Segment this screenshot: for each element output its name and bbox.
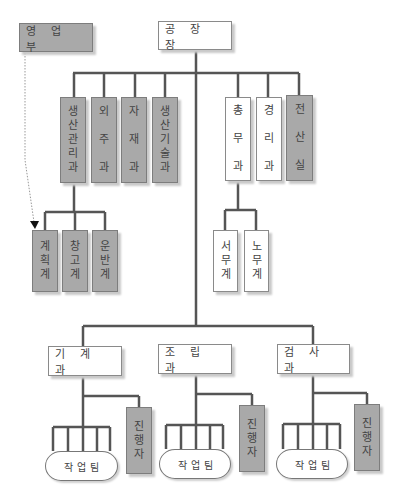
node-label: 술 xyxy=(160,147,170,161)
node-label: 행 xyxy=(134,434,144,448)
node-label: 기 계 과 xyxy=(55,345,121,377)
node-label: 진 xyxy=(247,418,257,432)
node-label: 서 xyxy=(221,240,231,254)
clerical-box: 서 무 계 xyxy=(213,230,238,292)
node-label: 과 xyxy=(68,161,78,175)
node-label: 공 장 장 xyxy=(165,20,231,52)
node-label: 계 xyxy=(252,268,262,282)
node-label: 과 xyxy=(160,161,170,175)
node-label: 자 xyxy=(129,105,139,119)
transport-box: 운 반 계 xyxy=(92,230,118,292)
expediter-1-box: 진 행 자 xyxy=(126,407,152,474)
node-label: 무 xyxy=(252,254,262,268)
node-label: 무 xyxy=(221,254,231,268)
node-label: 창 xyxy=(70,240,80,254)
node-label: 진 xyxy=(362,417,372,431)
node-label: 조 립 과 xyxy=(165,343,231,375)
accounting-box: 경 리 과 xyxy=(256,97,282,181)
machining-dept-box: 기 계 과 xyxy=(48,346,122,376)
expediter-3-box: 진 행 자 xyxy=(354,404,380,471)
node-label: 경 xyxy=(264,104,274,118)
materials-box: 자 재 과 xyxy=(121,97,147,183)
node-label: 과 xyxy=(264,160,274,174)
node-label: 행 xyxy=(247,432,257,446)
planning-box: 계 획 계 xyxy=(32,230,58,292)
node-label: 계 xyxy=(40,268,50,282)
node-label: 계 xyxy=(40,240,50,254)
node-label: 주 xyxy=(99,133,109,147)
node-label: 리 xyxy=(68,147,78,161)
general-affairs-box: 총 무 과 xyxy=(225,97,251,181)
node-label: 자 xyxy=(247,446,257,460)
production-tech-box: 생 산 기 술 과 xyxy=(152,97,178,183)
labor-box: 노 무 계 xyxy=(244,230,269,292)
node-label: 전 xyxy=(295,103,305,117)
node-label: 작업팀 xyxy=(64,459,103,474)
assembly-dept-box: 조 립 과 xyxy=(158,344,232,374)
node-label: 고 xyxy=(70,254,80,268)
work-team-3: 작업팀 xyxy=(276,449,348,479)
node-label: 운 xyxy=(100,240,110,254)
node-label: 계 xyxy=(221,268,231,282)
sales-dept-box: 영 업 부 xyxy=(19,23,93,52)
node-label: 리 xyxy=(264,132,274,146)
org-chart: 영 업 부 공 장 장 생 산 관 리 과 외 주 과 자 재 과 생 산 기 … xyxy=(0,0,404,499)
outsourcing-box: 외 주 과 xyxy=(91,97,117,183)
node-label: 작업팀 xyxy=(178,457,217,472)
work-team-1: 작업팀 xyxy=(45,451,118,481)
node-label: 검 사 과 xyxy=(284,343,349,375)
node-label: 자 xyxy=(134,448,144,462)
node-label: 산 xyxy=(295,131,305,145)
node-label: 반 xyxy=(100,254,110,268)
node-label: 기 xyxy=(160,133,170,147)
node-label: 영 업 부 xyxy=(26,22,92,54)
node-label: 재 xyxy=(129,133,139,147)
node-label: 행 xyxy=(362,431,372,445)
expediter-2-box: 진 행 자 xyxy=(239,405,265,472)
node-label: 생 xyxy=(160,105,170,119)
work-team-2: 작업팀 xyxy=(159,449,231,479)
production-mgmt-box: 생 산 관 리 과 xyxy=(60,97,86,183)
node-label: 작업팀 xyxy=(295,457,334,472)
computing-room-box: 전 산 실 xyxy=(286,95,313,181)
node-label: 총 xyxy=(233,104,243,118)
node-label: 획 xyxy=(40,254,50,268)
node-label: 계 xyxy=(70,268,80,282)
node-label: 계 xyxy=(100,268,110,282)
node-label: 무 xyxy=(233,132,243,146)
connector-lines xyxy=(0,0,404,499)
factory-director-box: 공 장 장 xyxy=(158,21,232,50)
node-label: 관 xyxy=(68,133,78,147)
node-label: 외 xyxy=(99,105,109,119)
node-label: 노 xyxy=(252,240,262,254)
node-label: 자 xyxy=(362,445,372,459)
node-label: 진 xyxy=(134,420,144,434)
warehouse-box: 창 고 계 xyxy=(62,230,88,292)
node-label: 과 xyxy=(129,161,139,175)
node-label: 산 xyxy=(68,119,78,133)
node-label: 과 xyxy=(99,161,109,175)
node-label: 과 xyxy=(233,160,243,174)
node-label: 실 xyxy=(295,159,305,173)
node-label: 산 xyxy=(160,119,170,133)
node-label: 생 xyxy=(68,105,78,119)
inspection-dept-box: 검 사 과 xyxy=(277,344,350,374)
